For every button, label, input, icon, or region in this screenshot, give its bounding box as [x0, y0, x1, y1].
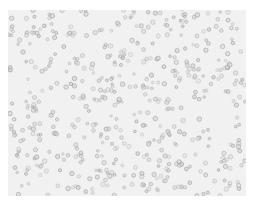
- cell: [207, 145, 210, 148]
- cell: [96, 150, 99, 153]
- cell: [113, 147, 117, 151]
- cell: [48, 65, 51, 68]
- cell: [71, 95, 75, 99]
- cell: [219, 11, 222, 14]
- cell: [171, 69, 175, 73]
- cell: [88, 177, 92, 181]
- cell: [183, 47, 186, 50]
- cell: [205, 39, 208, 42]
- cell: [209, 82, 213, 86]
- cell: [127, 144, 131, 148]
- cell: [134, 84, 138, 88]
- cell: [112, 162, 115, 165]
- cell: [33, 15, 36, 18]
- cell: [226, 52, 230, 56]
- cell: [66, 154, 70, 158]
- cell: [230, 26, 234, 30]
- cell: [20, 184, 23, 187]
- cell: [80, 54, 84, 58]
- cell: [157, 165, 160, 168]
- cell: [145, 153, 148, 156]
- cell: [113, 90, 116, 93]
- cell: [152, 172, 156, 176]
- cell: [68, 31, 72, 35]
- cell: [203, 96, 206, 99]
- cell: [122, 142, 126, 146]
- cell: [167, 155, 171, 159]
- cell: [28, 126, 31, 129]
- cell: [159, 174, 163, 178]
- cell: [174, 60, 178, 64]
- cell: [191, 138, 195, 142]
- cell: [167, 107, 170, 110]
- cell: [84, 190, 88, 194]
- cell: [191, 64, 195, 68]
- cell: [75, 147, 78, 150]
- cell: [147, 187, 151, 191]
- cell: [95, 98, 99, 102]
- cell: [231, 23, 234, 26]
- cell: [208, 137, 211, 140]
- cell: [159, 124, 162, 127]
- cell: [87, 109, 90, 112]
- cell: [67, 134, 71, 138]
- cell: [16, 147, 20, 151]
- cell: [228, 166, 232, 170]
- cell: [181, 118, 185, 122]
- cell: [46, 38, 49, 41]
- cell: [220, 44, 225, 49]
- cell: [146, 25, 150, 29]
- cell: [239, 50, 243, 54]
- cell: [17, 155, 20, 158]
- cell: [139, 24, 143, 28]
- cell: [86, 122, 89, 125]
- cell: [62, 153, 65, 156]
- cell: [232, 99, 235, 102]
- cell: [194, 90, 198, 94]
- cell: [77, 175, 81, 179]
- cell: [243, 159, 246, 163]
- cell: [49, 61, 52, 64]
- cell: [145, 77, 149, 81]
- cell: [135, 120, 138, 123]
- cell: [31, 108, 35, 112]
- cell: [113, 173, 116, 176]
- cell: [49, 86, 53, 90]
- cell: [100, 28, 103, 31]
- cell: [151, 20, 155, 24]
- cell: [55, 118, 58, 121]
- cell: [145, 57, 149, 61]
- cell: [203, 89, 206, 92]
- cell: [69, 25, 73, 29]
- cell: [236, 180, 240, 184]
- cell: [179, 106, 183, 110]
- cell: [175, 143, 178, 146]
- cell: [22, 138, 25, 141]
- cell: [113, 61, 116, 64]
- cell: [51, 30, 54, 33]
- cell: [138, 111, 141, 114]
- cell: [155, 177, 158, 180]
- cell: [135, 25, 138, 28]
- cell: [9, 124, 13, 128]
- cell: [196, 58, 199, 61]
- cell: [39, 28, 42, 31]
- cell: [199, 170, 203, 174]
- cell: [197, 97, 201, 101]
- cell: [33, 122, 37, 126]
- cell: [17, 43, 20, 46]
- cell: [71, 123, 75, 127]
- cell: [39, 173, 42, 176]
- cell: [223, 164, 227, 168]
- cell: [219, 68, 223, 72]
- cell: [56, 184, 60, 188]
- cell: [177, 185, 181, 189]
- cell: [153, 116, 158, 121]
- cell: [109, 54, 112, 57]
- cell: [216, 17, 220, 21]
- cell: [105, 79, 108, 82]
- cell: [120, 136, 124, 140]
- cell: [116, 21, 120, 25]
- cell: [221, 156, 224, 159]
- cell: [93, 30, 97, 34]
